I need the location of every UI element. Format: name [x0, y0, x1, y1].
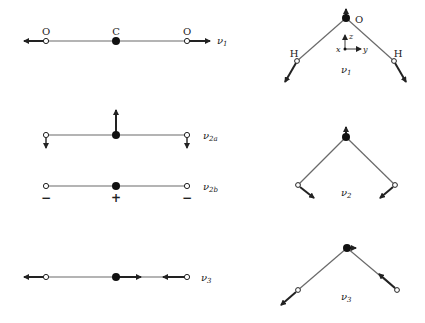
mode-label-v3: ν3 — [341, 291, 352, 304]
axis-label-z: z — [348, 32, 354, 41]
linear-v2b-mode: − + − ν2b — [41, 181, 219, 205]
bent-v1-mode: O H H z y x ν1 — [285, 9, 406, 82]
coordinate-axes: z y x — [336, 32, 368, 54]
linear-v2a-mode: ν2a — [43, 110, 217, 148]
mode-label-v2b: ν2b — [203, 181, 219, 194]
oxygen-atom-right — [184, 38, 189, 43]
bent-v2-mode: ν2 — [296, 127, 398, 200]
carbon-atom — [112, 273, 120, 281]
oxygen-atom-right — [184, 132, 189, 137]
vibrational-modes-diagram: O C O ν1 ν2a − + − ν2b ν3 — [0, 0, 425, 323]
hydrogen-atom-right — [392, 59, 397, 64]
oxygen-atom-right — [184, 274, 189, 279]
carbon-atom — [112, 131, 120, 139]
oxygen-atom — [342, 133, 350, 141]
atom-label-h-left: H — [290, 48, 299, 59]
mode-label-v1: ν1 — [341, 64, 352, 77]
arrow-down-right-icon — [395, 63, 406, 82]
sign-minus-left: − — [41, 191, 51, 205]
linear-v3-mode: ν3 — [24, 272, 212, 285]
oxygen-atom-left — [43, 183, 48, 188]
hydrogen-atom-left — [295, 59, 300, 64]
atom-label-o: O — [355, 14, 363, 25]
sign-minus-right: − — [182, 191, 192, 205]
axis-label-x: x — [336, 45, 341, 54]
bent-v3-mode: ν3 — [281, 244, 399, 305]
arrow-down-left-icon — [380, 187, 393, 198]
atom-label-c: C — [112, 26, 120, 37]
atom-label-o-right: O — [183, 26, 191, 37]
carbon-atom — [112, 37, 120, 45]
oxygen-atom-left — [43, 132, 48, 137]
arrow-down-right-icon — [300, 187, 314, 198]
bond-line-left — [298, 137, 346, 185]
bond-line-left — [298, 248, 347, 290]
arrow-down-left-icon — [281, 292, 296, 305]
oxygen-atom-left — [43, 274, 48, 279]
hydrogen-atom-left — [296, 183, 301, 188]
mode-label-v3: ν3 — [201, 272, 212, 285]
mode-label-v2: ν2 — [341, 187, 352, 200]
hydrogen-atom-left — [296, 288, 301, 293]
carbon-atom — [112, 182, 120, 190]
bond-line-left — [297, 18, 346, 61]
hydrogen-atom-right — [393, 183, 398, 188]
oxygen-atom-right — [184, 183, 189, 188]
atom-label-h-right: H — [394, 48, 403, 59]
mode-label-v1: ν1 — [217, 35, 228, 48]
oxygen-atom — [343, 244, 351, 252]
arrow-up-left-icon — [379, 274, 395, 288]
bond-line-right — [346, 137, 395, 185]
atom-label-o-left: O — [42, 26, 50, 37]
mode-label-v2a: ν2a — [203, 130, 218, 143]
oxygen-atom-left — [43, 38, 48, 43]
axis-label-y: y — [362, 45, 368, 54]
sign-plus-center: + — [111, 191, 121, 205]
linear-v1-mode: O C O ν1 — [24, 26, 228, 48]
hydrogen-atom-right — [395, 288, 400, 293]
arrow-down-left-icon — [285, 63, 296, 82]
x-axis-dot-icon — [344, 48, 347, 51]
oxygen-atom — [342, 14, 350, 22]
